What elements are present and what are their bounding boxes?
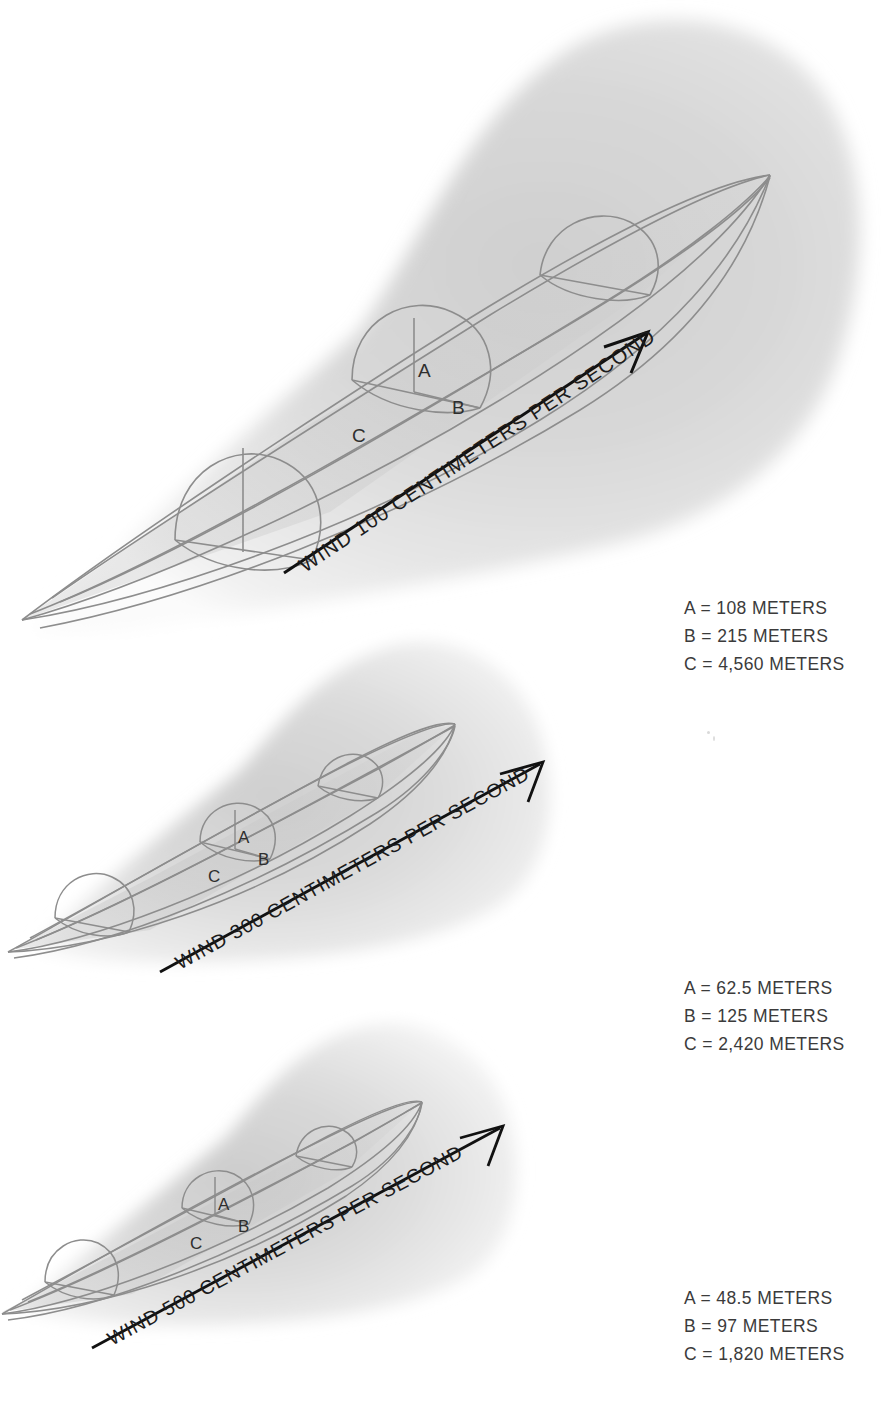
label-a-500: A (218, 1195, 230, 1214)
legend-key: C (684, 1344, 697, 1364)
legend-300: A = 62.5 METERS B = 125 METERS C = 2,420… (684, 974, 845, 1058)
legend-line: C = 4,560 METERS (684, 650, 845, 678)
label-b-100: B (452, 397, 465, 418)
legend-value: 48.5 (716, 1288, 752, 1308)
legend-value: 1,820 (718, 1344, 764, 1364)
legend-line: A = 108 METERS (684, 594, 845, 622)
scan-speck (707, 731, 710, 734)
plume-panel-100: A B C WIND 100 CENTIMETERS PER SECOND (0, 0, 881, 640)
scan-speck (713, 736, 715, 741)
label-c-500: C (190, 1234, 202, 1253)
legend-line: B = 215 METERS (684, 622, 845, 650)
plume-drawing-300: A B C WIND 300 CENTIMETERS PER SECOND (0, 620, 881, 1020)
legend-line: B = 125 METERS (684, 1002, 845, 1030)
legend-key: B (684, 1006, 696, 1026)
label-c-100: C (352, 425, 366, 446)
legend-equals: = (701, 1316, 712, 1336)
label-b-500: B (238, 1217, 249, 1236)
legend-line: C = 2,420 METERS (684, 1030, 845, 1058)
legend-equals: = (700, 1288, 711, 1308)
label-b-300: B (258, 850, 269, 869)
legend-equals: = (700, 978, 711, 998)
label-a-100: A (418, 360, 431, 381)
legend-value: 4,560 (718, 654, 764, 674)
legend-value: 108 (716, 598, 746, 618)
legend-key: C (684, 654, 697, 674)
legend-unit: METERS (753, 1006, 828, 1026)
legend-unit: METERS (752, 598, 827, 618)
wind-plume-figure: A B C WIND 100 CENTIMETERS PER SECOND (0, 0, 881, 1401)
label-c-300: C (208, 867, 220, 886)
plume-drawing-100: A B C WIND 100 CENTIMETERS PER SECOND (0, 0, 881, 640)
legend-value: 2,420 (718, 1034, 764, 1054)
legend-value: 97 (717, 1316, 737, 1336)
legend-line: B = 97 METERS (684, 1312, 845, 1340)
legend-equals: = (702, 1344, 713, 1364)
legend-unit: METERS (757, 1288, 832, 1308)
legend-key: A (684, 598, 695, 618)
legend-500: A = 48.5 METERS B = 97 METERS C = 1,820 … (684, 1284, 845, 1368)
legend-equals: = (702, 654, 713, 674)
label-a-300: A (238, 828, 250, 847)
legend-equals: = (701, 626, 712, 646)
legend-unit: METERS (769, 654, 844, 674)
legend-line: A = 62.5 METERS (684, 974, 845, 1002)
legend-unit: METERS (757, 978, 832, 998)
legend-line: A = 48.5 METERS (684, 1284, 845, 1312)
legend-line: C = 1,820 METERS (684, 1340, 845, 1368)
legend-key: C (684, 1034, 697, 1054)
legend-key: B (684, 1316, 696, 1336)
legend-value: 215 (717, 626, 747, 646)
plume-panel-300: A B C WIND 300 CENTIMETERS PER SECOND (0, 620, 881, 1020)
legend-equals: = (700, 598, 711, 618)
legend-unit: METERS (753, 626, 828, 646)
legend-unit: METERS (769, 1034, 844, 1054)
legend-unit: METERS (769, 1344, 844, 1364)
legend-100: A = 108 METERS B = 215 METERS C = 4,560 … (684, 594, 845, 678)
legend-equals: = (701, 1006, 712, 1026)
legend-key: A (684, 1288, 695, 1308)
legend-key: B (684, 626, 696, 646)
legend-key: A (684, 978, 695, 998)
legend-unit: METERS (743, 1316, 818, 1336)
legend-equals: = (702, 1034, 713, 1054)
legend-value: 125 (717, 1006, 747, 1026)
legend-value: 62.5 (716, 978, 752, 998)
